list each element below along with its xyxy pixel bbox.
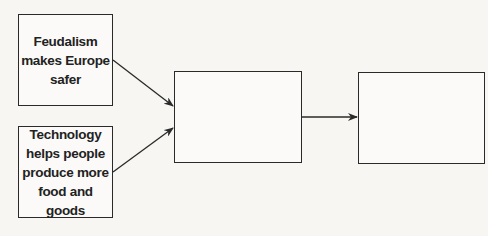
effect-box-1[interactable] [174,71,302,163]
cause-text-feudalism: Feudalism makes Europe safer [21,32,110,89]
arrow-cause1-to-effect1 [113,60,173,106]
cause-box-technology: Technology helps people produce more foo… [18,126,113,218]
effect-box-2[interactable] [358,72,485,164]
cause-text-technology: Technology helps people produce more foo… [19,125,112,220]
arrow-cause2-to-effect1 [113,128,173,172]
cause-box-feudalism: Feudalism makes Europe safer [18,14,113,106]
